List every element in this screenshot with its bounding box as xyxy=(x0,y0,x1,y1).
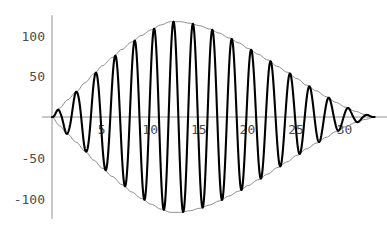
amplitude-modulated-oscillation-chart: 10050-50-100 51015202530 xyxy=(0,0,387,242)
y-tick-label: -100 xyxy=(14,192,45,207)
x-tick-label: 10 xyxy=(142,122,158,137)
plot-container: 10050-50-100 51015202530 xyxy=(0,0,387,242)
y-tick-label: 100 xyxy=(22,29,45,44)
y-tick-label: -50 xyxy=(22,151,45,166)
y-tick-label: 50 xyxy=(29,69,45,84)
x-tick-label: 20 xyxy=(240,122,256,137)
